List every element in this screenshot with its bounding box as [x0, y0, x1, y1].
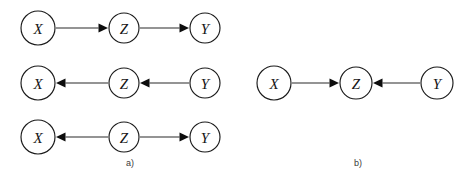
- arrowhead-icon: [180, 133, 190, 142]
- node-z: Z: [109, 68, 139, 98]
- graph-chain-reverse: XZY: [21, 66, 220, 100]
- node-label: Z: [120, 21, 129, 37]
- panel-caption-a: a): [126, 158, 134, 168]
- edge-b1-x-to-b1-z: [292, 79, 339, 88]
- causal-graph-figure: XZYXZYXZYa)XZYb): [0, 0, 465, 185]
- node-label: Z: [352, 76, 361, 92]
- edge-a1-x-to-a1-z: [56, 24, 108, 33]
- graph-collider: XZY: [257, 66, 453, 100]
- edge-b1-y-to-b1-z: [373, 79, 420, 88]
- panel-caption-b: b): [354, 158, 362, 168]
- arrowhead-icon: [56, 79, 66, 88]
- node-label: X: [32, 21, 43, 37]
- node-x: X: [21, 11, 55, 45]
- node-y: Y: [421, 67, 453, 99]
- edge-a3-z-to-a3-y: [140, 133, 189, 142]
- node-z: Z: [109, 122, 139, 152]
- node-z: Z: [340, 67, 372, 99]
- arrowhead-icon: [99, 24, 109, 33]
- node-x: X: [21, 66, 55, 100]
- graph-chain-forward: XZY: [21, 11, 220, 45]
- node-x: X: [257, 66, 291, 100]
- edge-a2-y-to-a2-z: [140, 79, 189, 88]
- panel-a: XZYXZYXZYa): [21, 11, 220, 168]
- arrowhead-icon: [180, 24, 190, 33]
- node-z: Z: [109, 13, 139, 43]
- edge-a3-z-to-a3-x: [56, 133, 108, 142]
- arrowhead-icon: [56, 133, 66, 142]
- panel-b: XZYb): [257, 66, 453, 168]
- node-label: X: [32, 76, 43, 92]
- edge-a2-z-to-a2-x: [56, 79, 108, 88]
- arrowhead-icon: [330, 79, 340, 88]
- edge-a1-z-to-a1-y: [140, 24, 189, 33]
- arrowhead-icon: [140, 79, 150, 88]
- diagram-canvas: XZYXZYXZYa)XZYb): [0, 0, 465, 185]
- node-label: X: [268, 76, 279, 92]
- node-label: Z: [120, 76, 129, 92]
- node-y: Y: [190, 68, 220, 98]
- node-x: X: [21, 120, 55, 154]
- node-label: Z: [120, 130, 129, 146]
- arrowhead-icon: [373, 79, 383, 88]
- node-y: Y: [190, 122, 220, 152]
- node-label: X: [32, 130, 43, 146]
- graph-fork: XZY: [21, 120, 220, 154]
- node-y: Y: [190, 13, 220, 43]
